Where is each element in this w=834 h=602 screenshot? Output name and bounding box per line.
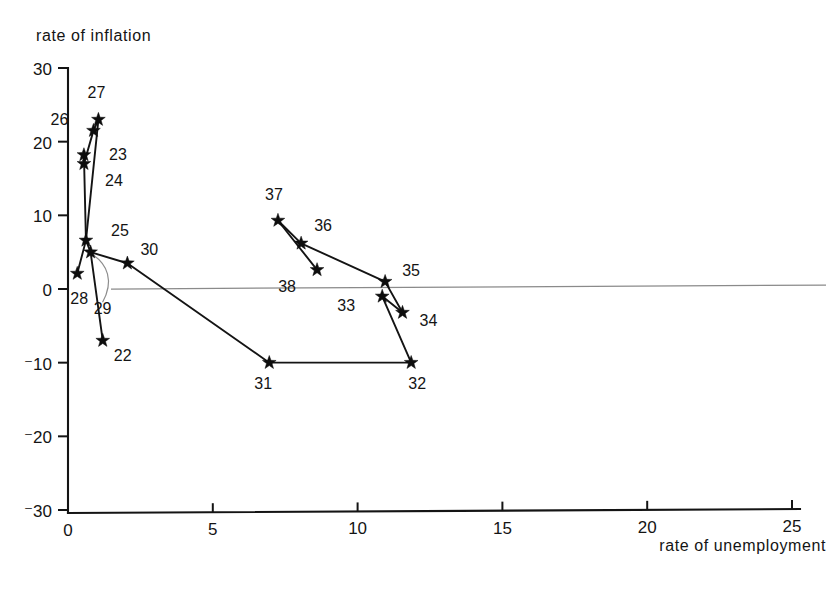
- y-tick-label: ⁻20: [24, 428, 52, 447]
- y-axis-title: rate of inflation: [36, 27, 151, 44]
- data-point-marker-31: [262, 355, 276, 368]
- series-segment: [382, 296, 411, 362]
- data-point-label-37: 37: [265, 186, 283, 203]
- x-axis-line: [68, 509, 800, 513]
- data-point-marker-25: [79, 233, 93, 246]
- y-tick-label: 10: [33, 207, 52, 226]
- series-segment: [77, 240, 86, 273]
- x-tick-label: 25: [783, 517, 802, 536]
- x-axis-title: rate of unemployment: [659, 537, 826, 554]
- series-segment: [301, 243, 385, 281]
- x-tick-label: 0: [63, 521, 72, 540]
- data-point-label-22: 22: [114, 347, 132, 364]
- inflation-unemployment-scatter-chart: rate of inflation rate of unemployment 3…: [0, 0, 834, 602]
- y-tick-label: ⁻10: [24, 355, 52, 374]
- y-tick-label: 20: [33, 134, 52, 153]
- x-tick-label: 15: [493, 519, 512, 538]
- data-point-label-35: 35: [402, 262, 420, 279]
- data-point-label-28: 28: [70, 290, 88, 307]
- y-tick-label: 30: [33, 60, 52, 79]
- data-point-marker-28: [70, 266, 84, 279]
- data-point-label-33: 33: [337, 297, 355, 314]
- data-point-label-29: 29: [94, 300, 112, 317]
- series-segment: [278, 220, 317, 269]
- data-point-label-38: 38: [278, 278, 296, 295]
- x-tick-label: 10: [348, 519, 367, 538]
- data-point-label-26: 26: [51, 111, 69, 128]
- data-point-label-25: 25: [111, 222, 129, 239]
- x-tick-label: 5: [208, 520, 217, 539]
- chart-canvas: rate of inflation rate of unemployment 3…: [0, 0, 834, 602]
- data-point-marker-22: [96, 333, 110, 346]
- data-point-label-32: 32: [408, 375, 426, 392]
- y-axis-ticks: 3020100⁻10⁻20⁻30: [24, 60, 68, 521]
- y-tick-label: 0: [43, 281, 52, 300]
- data-point-label-23: 23: [109, 146, 127, 163]
- data-point-marker-34: [396, 305, 410, 318]
- x-tick-label: 20: [638, 518, 657, 537]
- data-point-label-27: 27: [88, 84, 106, 101]
- zero-reference-line: [111, 285, 826, 289]
- series-line-segments: [77, 120, 411, 363]
- data-point-label-36: 36: [314, 217, 332, 234]
- data-point-label-30: 30: [140, 241, 158, 258]
- series-segment: [127, 263, 269, 362]
- data-point-label-24: 24: [105, 172, 123, 189]
- series-segment: [91, 252, 103, 340]
- x-axis-ticks: 0510152025: [63, 500, 801, 540]
- data-point-marker-35: [378, 274, 392, 287]
- data-point-marker-32: [404, 355, 418, 368]
- y-tick-label: ⁻30: [24, 502, 52, 521]
- data-point-label-31: 31: [254, 375, 272, 392]
- data-point-label-34: 34: [420, 312, 438, 329]
